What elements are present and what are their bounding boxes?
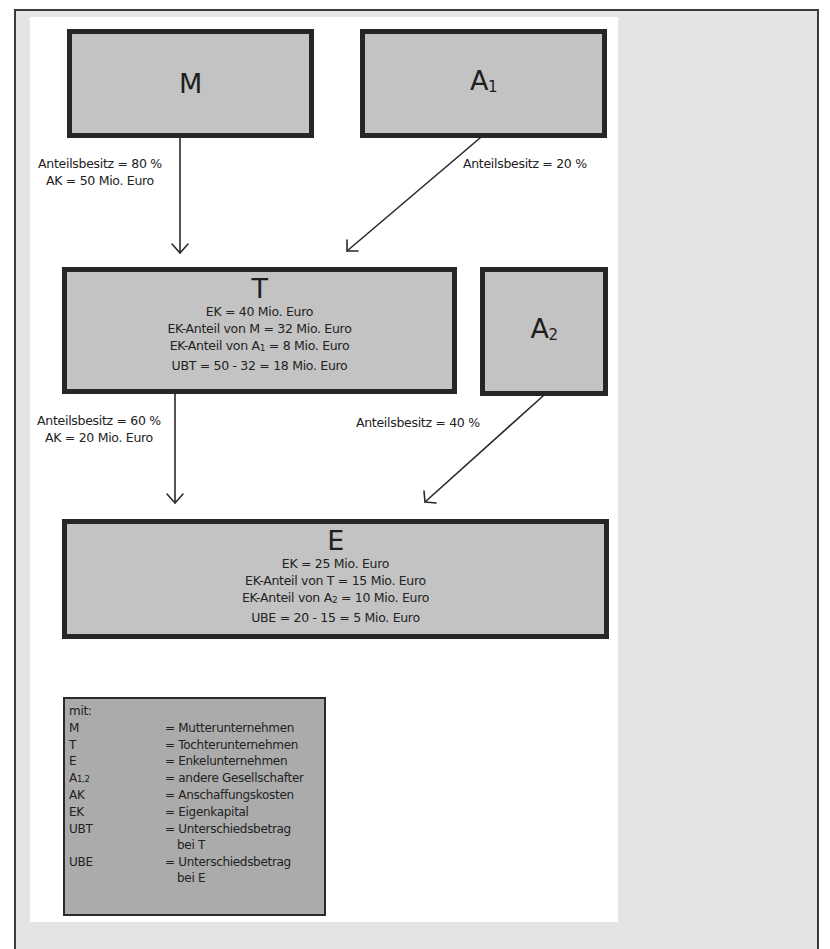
node-e-ube: UBE = 20 - 15 = 5 Mio. Euro <box>67 609 604 626</box>
legend-row: A1,2 = andere Gesellschafter <box>69 770 320 788</box>
legend-row: UBT = Unterschiedsbetragbei T <box>69 821 320 854</box>
legend-row: EK = Eigenkapital <box>69 804 320 821</box>
legend-row: E = Enkelunternehmen <box>69 753 320 770</box>
node-m: M <box>67 29 314 138</box>
text-suffix: = 8 Mio. Euro <box>265 338 349 353</box>
edge-label-cost: AK = 50 Mio. Euro <box>33 172 167 189</box>
node-e-label: E <box>67 527 604 555</box>
node-t-ubt: UBT = 50 - 32 = 18 Mio. Euro <box>67 357 452 374</box>
legend-abbr: T <box>69 737 165 754</box>
legend-abbr: A1,2 <box>69 770 165 788</box>
edge-label-cost: AK = 20 Mio. Euro <box>32 429 166 446</box>
text-prefix: EK-Anteil von A <box>170 338 260 353</box>
legend-row: T = Tochterunternehmen <box>69 737 320 754</box>
legend-def: = Unterschiedsbetragbei E <box>165 854 320 887</box>
node-a1: A1 <box>360 29 607 138</box>
node-t-ek: EK = 40 Mio. Euro <box>67 303 452 320</box>
legend-abbr: AK <box>69 787 165 804</box>
legend-def: = Tochterunternehmen <box>165 737 320 754</box>
legend: mit: M = Mutterunternehmen T = Tochterun… <box>63 697 326 916</box>
abbr-text: UBE <box>69 855 93 869</box>
node-e-ek: EK = 25 Mio. Euro <box>67 555 604 572</box>
node-a2: A2 <box>480 267 608 396</box>
edge-label-a2-e: Anteilsbesitz = 40 % <box>356 414 480 431</box>
abbr-text: EK <box>69 805 84 819</box>
node-a1-subscript: 1 <box>488 78 497 96</box>
text-prefix: EK-Anteil von A <box>242 590 332 605</box>
abbr-subscript: 1,2 <box>77 774 90 784</box>
abbr-text: M <box>69 721 79 735</box>
node-e-ek-share-a2: EK-Anteil von A2 = 10 Mio. Euro <box>67 589 604 609</box>
node-e-ek-share-t: EK-Anteil von T = 15 Mio. Euro <box>67 572 604 589</box>
legend-def: = Enkelunternehmen <box>165 753 320 770</box>
def-continuation: bei T <box>165 837 320 854</box>
legend-abbr: UBE <box>69 854 165 887</box>
def-text: = Unterschiedsbetrag <box>165 822 291 836</box>
edge-label-m-t: Anteilsbesitz = 80 % AK = 50 Mio. Euro <box>33 155 167 189</box>
legend-row: AK = Anschaffungskosten <box>69 787 320 804</box>
edge-label-a1-t: Anteilsbesitz = 20 % <box>463 155 587 172</box>
node-a2-subscript: 2 <box>548 326 557 344</box>
legend-abbr: E <box>69 753 165 770</box>
abbr-text: E <box>69 754 76 768</box>
abbr-text: UBT <box>69 822 92 836</box>
node-a2-label: A <box>530 313 548 344</box>
def-continuation: bei E <box>165 870 320 887</box>
legend-title: mit: <box>69 703 320 720</box>
edge-label-share: Anteilsbesitz = 40 % <box>356 414 480 431</box>
def-text: = Unterschiedsbetrag <box>165 855 291 869</box>
node-a1-label: A <box>470 65 488 96</box>
legend-abbr: EK <box>69 804 165 821</box>
abbr-text: AK <box>69 788 84 802</box>
legend-abbr: UBT <box>69 821 165 854</box>
edge-label-share: Anteilsbesitz = 80 % <box>33 155 167 172</box>
node-t-label: T <box>67 275 452 303</box>
abbr-text: A <box>69 771 77 785</box>
legend-row: UBE = Unterschiedsbetragbei E <box>69 854 320 887</box>
edge-label-share: Anteilsbesitz = 60 % <box>32 412 166 429</box>
edge-label-t-e: Anteilsbesitz = 60 % AK = 20 Mio. Euro <box>32 412 166 446</box>
node-t-ek-share-a1: EK-Anteil von A1 = 8 Mio. Euro <box>67 337 452 357</box>
legend-def: = Mutterunternehmen <box>165 720 320 737</box>
legend-row: M = Mutterunternehmen <box>69 720 320 737</box>
node-t-ek-share-m: EK-Anteil von M = 32 Mio. Euro <box>67 320 452 337</box>
legend-def: = Eigenkapital <box>165 804 320 821</box>
text-suffix: = 10 Mio. Euro <box>337 590 429 605</box>
legend-abbr: M <box>69 720 165 737</box>
legend-def: = Unterschiedsbetragbei T <box>165 821 320 854</box>
node-t: T EK = 40 Mio. Euro EK-Anteil von M = 32… <box>62 267 457 394</box>
node-e: E EK = 25 Mio. Euro EK-Anteil von T = 15… <box>62 519 609 639</box>
node-m-label: M <box>179 68 202 99</box>
abbr-text: T <box>69 738 76 752</box>
legend-def: = andere Gesellschafter <box>165 770 320 788</box>
legend-def: = Anschaffungskosten <box>165 787 320 804</box>
edge-label-share: Anteilsbesitz = 20 % <box>463 155 587 172</box>
